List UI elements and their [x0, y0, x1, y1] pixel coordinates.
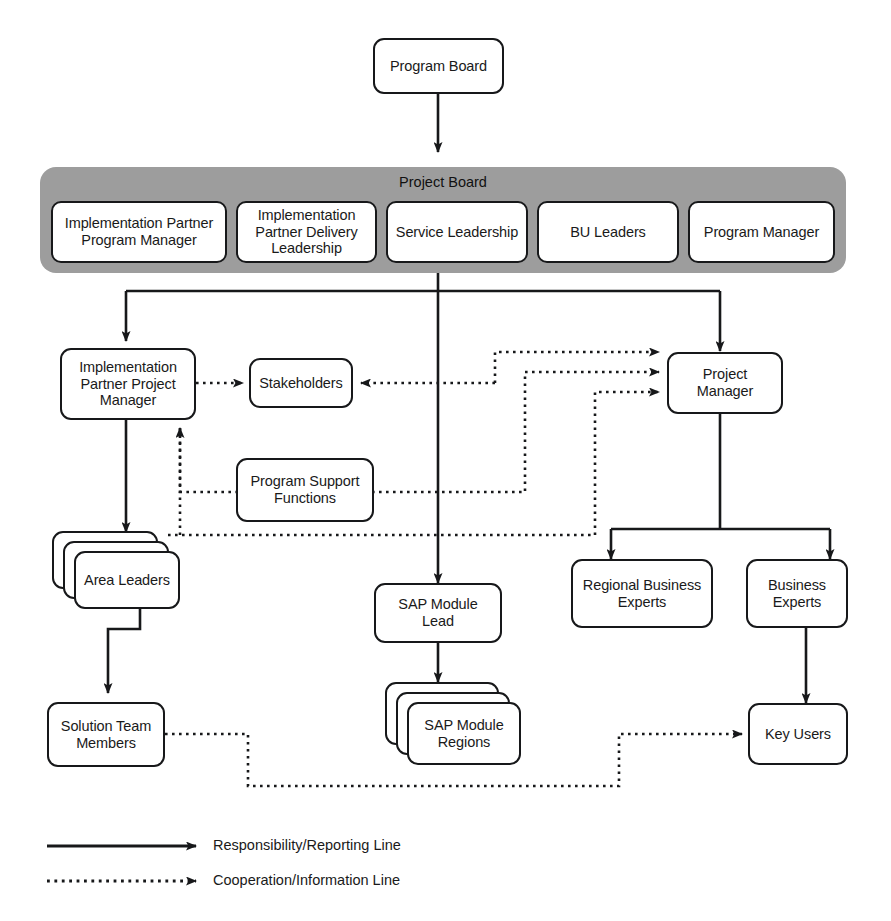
node-regional-business-experts[interactable]: Regional Business Experts: [571, 559, 713, 628]
node-business-experts-label: Business Experts: [748, 577, 846, 611]
node-stakeholders-label: Stakeholders: [254, 375, 347, 392]
legend-solid-label: Responsibility/Reporting Line: [213, 837, 401, 853]
node-program-manager-label: Program Manager: [699, 224, 824, 241]
node-ippm-label: Implementation Partner Project Manager: [62, 359, 194, 409]
node-program-board-label: Program Board: [385, 58, 492, 75]
node-program-board[interactable]: Program Board: [373, 38, 504, 94]
org-chart-diagram: Program Board Project Board Implementati…: [0, 0, 891, 921]
node-sap-module-lead-label: SAP Module Lead: [376, 596, 500, 630]
node-key-users[interactable]: Key Users: [748, 703, 848, 765]
node-key-users-label: Key Users: [760, 726, 836, 743]
edge-pm-stakeholders-riser: [495, 352, 659, 383]
node-solution-team-members-label: Solution Team Members: [49, 718, 163, 752]
node-ipd-leadership-label: Implementation Partner Delivery Leadersh…: [238, 207, 375, 257]
node-implementation-partner-project-manager[interactable]: Implementation Partner Project Manager: [60, 348, 196, 420]
node-bu-leaders[interactable]: BU Leaders: [537, 201, 679, 263]
node-project-manager-tier3[interactable]: Project Manager: [667, 352, 783, 414]
edge-psf-to-ippm: [180, 428, 238, 492]
node-sap-module-regions[interactable]: SAP Module Regions: [407, 702, 521, 765]
node-service-leadership-label: Service Leadership: [391, 224, 523, 241]
node-bu-leaders-label: BU Leaders: [565, 224, 651, 241]
node-regional-business-experts-label: Regional Business Experts: [573, 577, 711, 611]
connector-layer: [0, 0, 891, 921]
node-service-leadership[interactable]: Service Leadership: [386, 201, 528, 263]
node-area-leaders-label: Area Leaders: [79, 572, 175, 589]
legend-dotted-label: Cooperation/Information Line: [213, 872, 400, 888]
edge-area-leaders-to-solution-team: [108, 601, 140, 693]
node-project-manager-tier3-label: Project Manager: [669, 366, 781, 400]
node-area-leaders[interactable]: Area Leaders: [74, 551, 180, 609]
project-board-title: Project Board: [40, 174, 846, 190]
edge-psf-to-project-manager: [372, 372, 659, 492]
node-sap-module-regions-label: SAP Module Regions: [409, 717, 519, 751]
node-solution-team-members[interactable]: Solution Team Members: [47, 702, 165, 767]
node-sap-module-lead[interactable]: SAP Module Lead: [374, 583, 502, 643]
node-psf-label: Program Support Functions: [238, 473, 372, 507]
node-implementation-partner-delivery-leadership[interactable]: Implementation Partner Delivery Leadersh…: [236, 201, 377, 263]
node-stakeholders[interactable]: Stakeholders: [249, 358, 353, 408]
node-program-support-functions[interactable]: Program Support Functions: [236, 458, 374, 522]
node-implementation-partner-program-manager[interactable]: Implementation Partner Program Manager: [51, 201, 227, 263]
node-ipp-manager-label: Implementation Partner Program Manager: [53, 215, 225, 249]
node-business-experts[interactable]: Business Experts: [746, 559, 848, 628]
node-program-manager[interactable]: Program Manager: [688, 201, 835, 263]
